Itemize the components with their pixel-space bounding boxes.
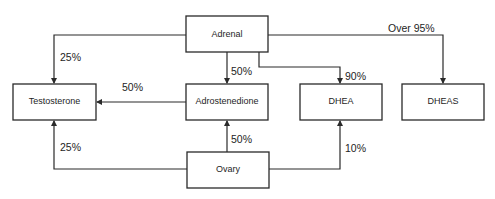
node-label-dheas: DHEAS bbox=[427, 96, 458, 106]
edge-adrenal-dhea bbox=[259, 52, 340, 83]
edge-label-ovary-testosterone: 25% bbox=[60, 141, 81, 153]
edge-label-adrenal-adrostenedione: 50% bbox=[231, 65, 252, 77]
node-label-adrenal: Adrenal bbox=[211, 29, 242, 39]
node-label-ovary: Ovary bbox=[216, 164, 241, 174]
node-ovary: Ovary bbox=[187, 152, 269, 188]
node-testosterone: Testosterone bbox=[13, 84, 96, 120]
edge-label-adrenal-testosterone: 25% bbox=[60, 51, 81, 63]
node-dheas: DHEAS bbox=[402, 84, 484, 120]
node-label-adrostenedione: Adrostenedione bbox=[195, 96, 258, 106]
edge-label-adrenal-dheas: Over 95% bbox=[388, 22, 435, 34]
node-label-testosterone: Testosterone bbox=[29, 96, 81, 106]
androgen-sources-diagram: 25% 50% 90% Over 95% 50% 50% 25% 10% Adr… bbox=[0, 0, 495, 199]
edge-label-ovary-adrostenedione: 50% bbox=[231, 133, 252, 145]
edge-label-adrostenedione-testosterone: 50% bbox=[122, 81, 143, 93]
node-adrenal: Adrenal bbox=[186, 16, 268, 52]
node-label-dhea: DHEA bbox=[328, 96, 353, 106]
edge-label-ovary-dhea: 10% bbox=[345, 142, 366, 154]
node-adrostenedione: Adrostenedione bbox=[186, 84, 268, 120]
edge-ovary-dhea bbox=[269, 121, 340, 169]
edge-label-adrenal-dhea: 90% bbox=[345, 70, 366, 82]
node-dhea: DHEA bbox=[300, 84, 382, 120]
